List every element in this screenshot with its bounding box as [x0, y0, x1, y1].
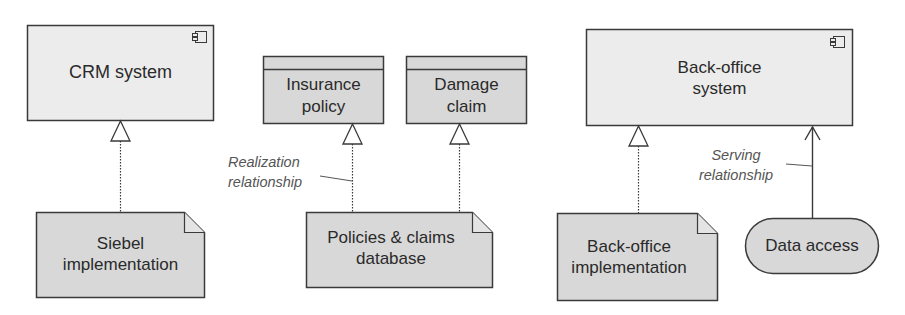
label-line: claim: [406, 96, 527, 118]
siebel-implementation-label: Siebel implementation: [36, 233, 205, 275]
policies-claims-database-label: Policies & claims database: [306, 227, 476, 269]
backoffice-implementation-label: Back-office implementation: [557, 236, 701, 278]
serving-annotation: Serving relationship: [690, 145, 782, 185]
folded-corner-icon: [185, 213, 205, 233]
label-line: implementation: [36, 254, 205, 275]
damage-claim-label: Damage claim: [406, 74, 527, 118]
realization-arrowhead-icon: [343, 124, 362, 144]
realization-relationship-damage-claim[interactable]: [450, 124, 469, 212]
realization-relationship-backoffice[interactable]: [629, 126, 648, 213]
folded-corner-icon: [698, 214, 718, 234]
label-line: Insurance: [263, 74, 384, 96]
annotation-line: relationship: [690, 165, 782, 185]
realization-relationship-insurance-policy[interactable]: [343, 124, 362, 212]
label-line: database: [306, 248, 476, 269]
label-line: Policies & claims: [306, 227, 476, 248]
realization-arrowhead-icon: [450, 124, 469, 144]
component-icon: [831, 37, 845, 48]
serving-relationship[interactable]: [805, 127, 820, 218]
label-line: Damage: [406, 74, 527, 96]
realization-arrowhead-icon: [111, 121, 130, 141]
label-line: policy: [263, 96, 384, 118]
realization-relationship-crm[interactable]: [111, 121, 130, 212]
component-icon: [193, 32, 207, 43]
realization-annotation-leader: [320, 176, 352, 181]
label-line: Siebel: [36, 233, 205, 254]
label-line: implementation: [557, 257, 701, 278]
annotation-line: Serving: [690, 145, 782, 165]
crm-system-label: CRM system: [27, 62, 214, 83]
annotation-line: Realization: [228, 152, 318, 172]
label-line: system: [586, 78, 853, 99]
label-line: Back-office: [586, 57, 853, 78]
data-access-label: Data access: [745, 235, 879, 256]
label-line: Back-office: [557, 236, 701, 257]
annotation-line: relationship: [228, 172, 318, 192]
serving-annotation-leader: [786, 164, 812, 166]
insurance-policy-label: Insurance policy: [263, 74, 384, 118]
backoffice-system-label: Back-office system: [586, 57, 853, 99]
realization-annotation: Realization relationship: [228, 152, 318, 192]
realization-arrowhead-icon: [629, 126, 648, 146]
